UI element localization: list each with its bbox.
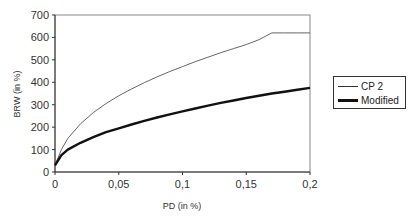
legend-item-cp2: CP 2 [338, 79, 383, 93]
x-tick-label: 0,05 [108, 178, 129, 190]
y-axis-title: BRW (in %) [12, 71, 22, 118]
x-axis-title: PD (in %) [163, 201, 202, 211]
y-tick-label: 700 [31, 9, 49, 21]
x-tick-label: 0,2 [302, 178, 317, 190]
y-tick-label: 300 [31, 99, 49, 111]
y-tick-label: 600 [31, 31, 49, 43]
y-tick-label: 200 [31, 121, 49, 133]
x-tick-label: 0,15 [236, 178, 257, 190]
thin-line-swatch-icon [338, 86, 358, 87]
y-tick-label: 400 [31, 76, 49, 88]
x-axis: 00,050,10,150,2 [52, 172, 318, 190]
legend-label: Modified [361, 95, 399, 106]
line-chart: 0100200300400500600700 00,050,10,150,2 P… [0, 0, 414, 220]
thick-line-swatch-icon [338, 99, 358, 102]
x-tick-label: 0 [52, 178, 58, 190]
y-tick-label: 100 [31, 144, 49, 156]
y-tick-label: 500 [31, 54, 49, 66]
x-tick-label: 0,1 [175, 178, 190, 190]
legend-label: CP 2 [361, 81, 383, 92]
legend-item-modified: Modified [338, 93, 399, 107]
y-axis: 0100200300400500600700 [31, 9, 55, 178]
legend: CP 2 Modified [333, 76, 406, 109]
y-tick-label: 0 [43, 166, 49, 178]
